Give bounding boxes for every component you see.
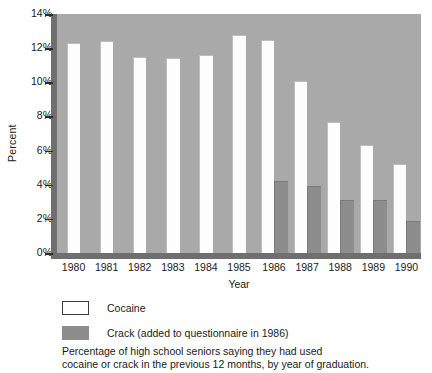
legend-swatch-crack — [62, 326, 89, 340]
bar-cocaine-1989 — [360, 145, 374, 253]
x-axis-tick-labels: 1980198119821983198419851986198719881989… — [57, 261, 421, 277]
bar-cocaine-1986 — [261, 40, 275, 253]
bar-crack-1989 — [373, 200, 387, 253]
y-tick-mark — [45, 48, 53, 50]
bar-cocaine-1980 — [67, 43, 81, 253]
legend-item-crack: Crack (added to questionnaire in 1986) — [62, 322, 412, 343]
caption-line-2: cocaine or crack in the previous 12 mont… — [62, 358, 422, 371]
caption-line-1: Percentage of high school seniors saying… — [62, 345, 422, 358]
bar-crack-1990 — [406, 221, 420, 253]
bar-crack-1986 — [274, 181, 288, 253]
y-tick-mark — [45, 151, 53, 153]
y-tick-mark — [45, 219, 53, 221]
y-tick-mark — [45, 82, 53, 84]
chart-legend: CocaineCrack (added to questionnaire in … — [62, 297, 412, 347]
bar-crack-1987 — [307, 186, 321, 253]
bar-cocaine-1985 — [232, 35, 246, 254]
x-tick-label-1985: 1985 — [219, 261, 259, 274]
x-tick-label-1990: 1990 — [386, 261, 426, 274]
legend-label-cocaine: Cocaine — [107, 302, 146, 314]
legend-swatch-cocaine — [62, 301, 89, 315]
legend-item-cocaine: Cocaine — [62, 297, 412, 318]
y-tick-mark — [45, 116, 53, 118]
y-tick-mark — [45, 14, 53, 16]
bar-cocaine-1990 — [393, 164, 407, 253]
y-tick-mark — [45, 185, 53, 187]
y-tick-mark — [45, 253, 53, 255]
bar-cocaine-1983 — [166, 58, 180, 253]
bar-cocaine-1982 — [133, 57, 147, 253]
chart-caption: Percentage of high school seniors saying… — [62, 345, 422, 370]
bar-chart-figure: Percent 0%2%4%6%8%10%12%14% 198019811982… — [0, 0, 432, 373]
bar-crack-1988 — [340, 200, 354, 253]
bar-cocaine-1981 — [100, 41, 114, 253]
x-axis-title: Year — [57, 278, 421, 290]
plot-area — [57, 14, 421, 253]
y-axis-tick-labels: 0%2%4%6%8%10%12%14% — [16, 0, 52, 275]
bar-cocaine-1988 — [327, 122, 341, 253]
bar-cocaine-1987 — [294, 81, 308, 253]
bar-cocaine-1984 — [199, 55, 213, 253]
legend-label-crack: Crack (added to questionnaire in 1986) — [107, 327, 289, 339]
x-axis-spine — [51, 253, 421, 259]
